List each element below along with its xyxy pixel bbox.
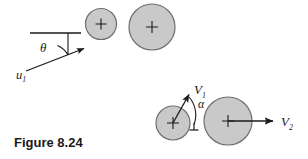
small-ball-before	[86, 9, 117, 40]
after-impact-diagram: V1 α V2	[156, 82, 293, 145]
figure-container: θ u1 V1	[0, 0, 308, 159]
velocity-vector-u1-label-subscript: 1	[22, 75, 26, 84]
angle-theta-label: θ	[40, 40, 47, 55]
velocity-vector-V2-label-subscript: 2	[289, 123, 293, 132]
large-ball-before	[129, 4, 175, 50]
velocity-vector-V2-label: V2	[281, 114, 293, 132]
before-impact-diagram: θ u1	[16, 4, 175, 84]
figure-caption: Figure 8.24	[14, 135, 83, 150]
angle-theta-arc	[58, 33, 69, 55]
figure-8-24-illustration: θ u1 V1	[0, 0, 308, 159]
angle-alpha-label: α	[198, 97, 205, 111]
velocity-vector-u1-label: u1	[16, 68, 26, 84]
velocity-vector-u1-line	[26, 49, 84, 72]
